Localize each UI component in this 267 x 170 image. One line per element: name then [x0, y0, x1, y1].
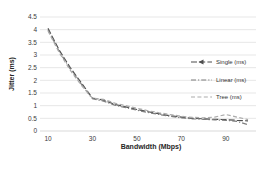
x-tick-label: 30	[89, 135, 97, 142]
x-tick-label: 50	[133, 135, 141, 142]
x-tick-label: 70	[178, 135, 186, 142]
x-tick-label: 10	[44, 135, 52, 142]
series-line-tree	[48, 31, 248, 120]
y-tick-label: 1	[33, 102, 37, 109]
legend-item-label: Tree (ms)	[216, 94, 242, 100]
chart-figure: 00.511.522.533.544.5 1030507090 Single (…	[0, 0, 267, 170]
gridlines	[40, 17, 256, 131]
y-tick-label: 2	[33, 77, 37, 84]
legend: Single (ms)Linear (ms)Tree (ms)	[191, 59, 246, 100]
y-tick-label: 2.5	[28, 64, 37, 71]
legend-marker-triangle	[199, 60, 204, 65]
y-tick-label: 3	[33, 51, 37, 58]
y-tick-label: 0.5	[28, 115, 37, 122]
legend-item: Single (ms)	[191, 59, 246, 65]
x-tick-label: 90	[222, 135, 230, 142]
y-tick-label: 4	[33, 26, 37, 33]
x-axis-tick-labels: 1030507090	[44, 135, 229, 142]
jitter-vs-bandwidth-chart: 00.511.522.533.544.5 1030507090 Single (…	[0, 0, 267, 170]
y-tick-label: 4.5	[28, 13, 37, 20]
y-tick-label: 1.5	[28, 89, 37, 96]
legend-item-label: Linear (ms)	[216, 77, 246, 83]
legend-item-label: Single (ms)	[216, 59, 246, 65]
y-axis-title: Jitter (ms)	[8, 57, 16, 91]
y-tick-label: 3.5	[28, 39, 37, 46]
x-axis-title: Bandwidth (Mbps)	[121, 143, 182, 151]
y-tick-label: 0	[33, 127, 37, 134]
y-axis-tick-labels: 00.511.522.533.544.5	[28, 13, 37, 134]
legend-item: Tree (ms)	[191, 94, 242, 100]
